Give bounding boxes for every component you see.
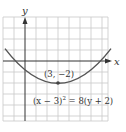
x-axis-arrow-icon xyxy=(105,59,112,64)
y-axis-arrow-icon xyxy=(23,17,28,24)
equation-lhs: (x − 3) xyxy=(33,96,62,106)
equation-rhs: = 8(y + 2) xyxy=(66,96,113,106)
parabola-figure: x y (3, −2) (x − 3)2 = 8(y + 2) xyxy=(0,0,126,132)
vertex-label: (3, −2) xyxy=(44,69,74,79)
x-axis-label: x xyxy=(114,56,120,67)
y-axis-label: y xyxy=(21,5,28,16)
equation-label: (x − 3)2 = 8(y + 2) xyxy=(33,95,113,106)
vertex-point xyxy=(56,81,60,85)
